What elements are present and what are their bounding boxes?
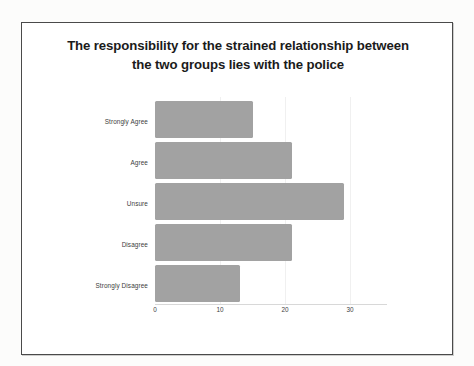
plot-area: Strongly Agree Agree Unsure Disagree Str <box>22 23 454 356</box>
category-label-unsure: Unsure <box>32 199 148 206</box>
category-label-disagree: Disagree <box>32 240 148 247</box>
bar-disagree <box>155 224 292 261</box>
x-tick-label-20: 20 <box>281 306 288 313</box>
bar-row: Disagree <box>22 223 454 264</box>
bar-row: Agree <box>22 141 454 182</box>
category-label-strongly-agree: Strongly Agree <box>32 117 148 124</box>
bar-strongly-disagree <box>155 265 240 302</box>
x-tick-label-0: 0 <box>153 306 157 313</box>
bar-row: Unsure <box>22 182 454 223</box>
category-label-agree: Agree <box>32 158 148 165</box>
chart-slide-frame: The responsibility for the strained rela… <box>21 22 453 355</box>
category-label-strongly-disagree: Strongly Disagree <box>32 281 148 288</box>
bar-agree <box>155 142 292 179</box>
x-axis-tick-labels: 0102030 <box>22 306 454 320</box>
scanned-page: The responsibility for the strained rela… <box>0 0 474 366</box>
bar-row: Strongly Agree <box>22 100 454 141</box>
x-tick-label-30: 30 <box>346 306 353 313</box>
bar-row: Strongly Disagree <box>22 264 454 305</box>
bar-unsure <box>155 183 344 220</box>
bar-strongly-agree <box>155 101 253 138</box>
x-tick-label-10: 10 <box>216 306 223 313</box>
